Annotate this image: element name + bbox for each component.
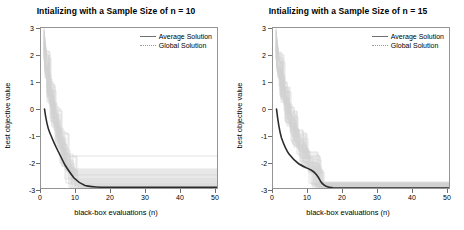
x-tick-mark [180,189,181,193]
x-tick-label: 10 [297,194,317,201]
plot-panel-right: Intializing with a Sample Size of n = 15… [232,0,464,230]
plot-svg-left [41,28,218,189]
x-tick-label: 40 [402,194,422,201]
x-tick-mark [377,189,378,193]
legend-item-average-solution: Average Solution [140,32,212,40]
y-axis-label-left: best objective value [2,0,14,230]
solid-line-icon [372,33,388,39]
legend-label: Average Solution [391,33,444,40]
x-tick-mark [215,189,216,193]
x-tick-label: 10 [65,194,85,201]
figure-canvas: Intializing with a Sample Size of n = 10… [0,0,464,230]
panel-title-left: Intializing with a Sample Size of n = 10 [0,6,232,16]
x-tick-label: 0 [30,194,50,201]
legend-left: Average Solution Global Solution [138,30,215,51]
legend-label: Global Solution [159,42,206,49]
x-tick-label: 20 [332,194,352,201]
x-tick-mark [307,189,308,193]
x-tick-label: 30 [367,194,387,201]
panel-title-right: Intializing with a Sample Size of n = 15 [232,6,464,16]
x-tick-label: 50 [205,194,225,201]
x-tick-label: 50 [437,194,457,201]
x-tick-label: 30 [135,194,155,201]
x-tick-mark [447,189,448,193]
plot-svg-right [273,28,450,189]
y-axis-label-text-left: best objective value [4,82,13,148]
dotted-line-icon [372,42,388,48]
x-tick-label: 40 [170,194,190,201]
legend-label: Average Solution [159,33,212,40]
solid-line-icon [140,33,156,39]
x-tick-mark [110,189,111,193]
legend-item-global-solution: Global Solution [140,41,212,49]
plot-panel-left: Intializing with a Sample Size of n = 10… [0,0,232,230]
y-axis-label-right: best objective value [234,0,246,230]
legend-item-average-solution: Average Solution [372,32,444,40]
x-tick-mark [272,189,273,193]
x-tick-mark [342,189,343,193]
dotted-line-icon [140,42,156,48]
legend-right: Average Solution Global Solution [370,30,447,51]
x-axis-label-right: black-box evaluations (n) [232,208,464,217]
average-solution-curve-left [45,109,219,187]
x-tick-mark [40,189,41,193]
run-traces-left [44,28,218,188]
x-tick-mark [75,189,76,193]
x-tick-label: 0 [262,194,282,201]
plot-area-left: Average Solution Global Solution [40,27,218,189]
legend-item-global-solution: Global Solution [372,41,444,49]
x-tick-label: 20 [100,194,120,201]
y-axis-label-text-right: best objective value [236,82,245,148]
x-axis-label-left: black-box evaluations (n) [0,208,232,217]
run-traces-right [276,28,450,188]
legend-label: Global Solution [391,42,438,49]
average-solution-curve-right [277,109,451,188]
x-tick-mark [412,189,413,193]
plot-area-right: Average Solution Global Solution [272,27,450,189]
x-tick-mark [145,189,146,193]
